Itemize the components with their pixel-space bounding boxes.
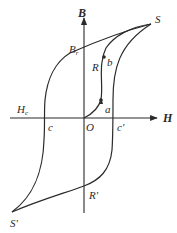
label-s: S [155, 13, 161, 25]
label-c-prime: c' [117, 121, 125, 133]
origin-label: O [86, 121, 94, 133]
label-c: c [48, 121, 53, 133]
label-br: Br [69, 43, 79, 57]
label-a: a [105, 103, 111, 115]
b-axis-label: B [77, 6, 86, 20]
point-b-marker [102, 55, 106, 59]
label-r-prime: R' [88, 189, 99, 201]
h-axis-label: H [162, 111, 173, 125]
hysteresis-diagram: B H O S S' Br Hc c c' R R' a b [0, 0, 177, 233]
label-hc: Hc [16, 103, 29, 117]
label-b: b [107, 56, 113, 68]
label-r: R [91, 61, 99, 73]
point-a-marker [99, 98, 103, 102]
label-s-prime: S' [10, 217, 19, 229]
